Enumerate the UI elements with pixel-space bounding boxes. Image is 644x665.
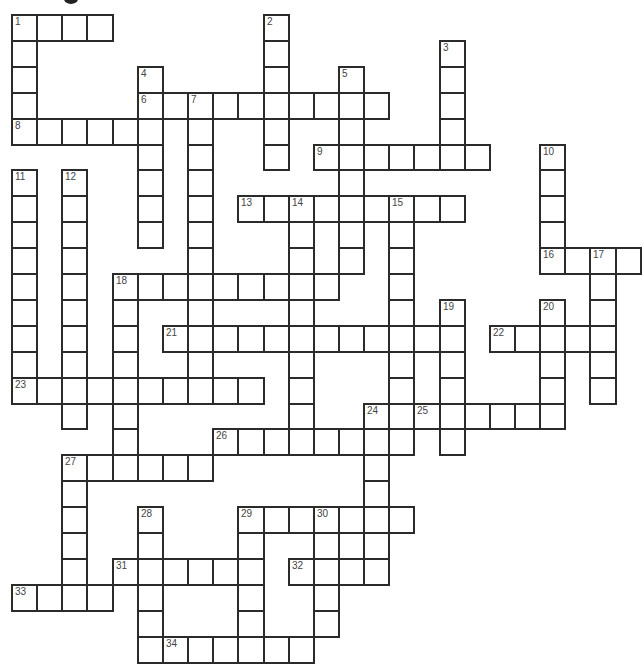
crossword-cell[interactable] [162, 92, 189, 120]
crossword-cell[interactable] [61, 325, 88, 353]
crossword-cell[interactable] [11, 92, 38, 120]
crossword-cell[interactable] [615, 247, 642, 275]
crossword-cell[interactable] [263, 118, 290, 146]
crossword-cell[interactable] [11, 66, 38, 94]
crossword-cell[interactable] [589, 351, 617, 379]
crossword-cell[interactable] [11, 40, 38, 68]
crossword-cell[interactable] [263, 636, 290, 664]
crossword-cell[interactable] [539, 403, 566, 430]
crossword-cell[interactable] [338, 169, 365, 197]
crossword-cell[interactable] [237, 428, 265, 456]
crossword-cell[interactable] [564, 325, 591, 353]
crossword-cell[interactable] [539, 351, 566, 379]
crossword-cell[interactable]: 28 [137, 506, 164, 534]
crossword-cell[interactable] [61, 403, 88, 430]
crossword-cell[interactable] [338, 221, 365, 249]
crossword-cell[interactable] [413, 195, 441, 223]
crossword-cell[interactable] [363, 454, 390, 482]
crossword-cell[interactable]: 3 [439, 40, 466, 68]
crossword-cell[interactable] [61, 195, 88, 223]
crossword-cell[interactable] [439, 377, 466, 405]
crossword-cell[interactable]: 31 [112, 558, 139, 586]
crossword-cell[interactable] [187, 169, 214, 197]
crossword-cell[interactable] [388, 325, 415, 353]
crossword-cell[interactable] [288, 506, 315, 534]
crossword-cell[interactable] [338, 195, 365, 223]
crossword-cell[interactable] [162, 454, 189, 482]
crossword-cell[interactable] [388, 273, 415, 301]
crossword-cell[interactable]: 23 [11, 377, 38, 405]
crossword-cell[interactable] [61, 377, 88, 405]
crossword-cell[interactable] [61, 247, 88, 275]
crossword-cell[interactable] [313, 273, 340, 301]
crossword-cell[interactable] [338, 325, 365, 353]
crossword-cell[interactable] [212, 273, 239, 301]
crossword-cell[interactable] [363, 558, 390, 586]
crossword-cell[interactable] [338, 558, 365, 586]
crossword-cell[interactable] [112, 454, 139, 482]
crossword-cell[interactable]: 19 [439, 299, 466, 327]
crossword-cell[interactable] [137, 144, 164, 171]
crossword-cell[interactable] [263, 428, 290, 456]
crossword-cell[interactable] [212, 558, 239, 586]
crossword-cell[interactable] [36, 584, 63, 612]
crossword-cell[interactable] [187, 144, 214, 171]
crossword-cell[interactable]: 6 [137, 92, 164, 120]
crossword-cell[interactable] [288, 299, 315, 327]
crossword-cell[interactable] [288, 247, 315, 275]
crossword-cell[interactable] [61, 558, 88, 586]
crossword-cell[interactable] [162, 377, 189, 405]
crossword-cell[interactable] [439, 144, 466, 171]
crossword-cell[interactable] [137, 195, 164, 223]
crossword-cell[interactable] [86, 454, 114, 482]
crossword-cell[interactable] [313, 532, 340, 560]
crossword-cell[interactable] [61, 221, 88, 249]
crossword-cell[interactable]: 11 [11, 169, 38, 197]
crossword-cell[interactable] [263, 325, 290, 353]
crossword-cell[interactable] [313, 195, 340, 223]
crossword-cell[interactable] [162, 273, 189, 301]
crossword-cell[interactable]: 29 [237, 506, 265, 534]
crossword-cell[interactable] [137, 454, 164, 482]
crossword-cell[interactable] [388, 247, 415, 275]
crossword-cell[interactable] [288, 273, 315, 301]
crossword-cell[interactable] [263, 195, 290, 223]
crossword-cell[interactable] [61, 273, 88, 301]
crossword-cell[interactable]: 12 [61, 169, 88, 197]
crossword-cell[interactable] [388, 144, 415, 171]
crossword-cell[interactable] [36, 14, 63, 42]
crossword-cell[interactable] [212, 325, 239, 353]
crossword-cell[interactable] [439, 118, 466, 146]
crossword-cell[interactable] [439, 351, 466, 379]
crossword-cell[interactable] [237, 325, 265, 353]
crossword-cell[interactable]: 34 [162, 636, 189, 664]
crossword-cell[interactable] [263, 40, 290, 68]
crossword-cell[interactable] [439, 325, 466, 353]
crossword-cell[interactable] [112, 325, 139, 353]
crossword-cell[interactable] [313, 558, 340, 586]
crossword-cell[interactable] [237, 532, 265, 560]
crossword-cell[interactable]: 33 [11, 584, 38, 612]
crossword-cell[interactable] [388, 351, 415, 379]
crossword-cell[interactable] [589, 273, 617, 301]
crossword-cell[interactable] [61, 506, 88, 534]
crossword-cell[interactable] [288, 92, 315, 120]
crossword-cell[interactable] [439, 403, 466, 430]
crossword-cell[interactable]: 20 [539, 299, 566, 327]
crossword-cell[interactable] [11, 247, 38, 275]
crossword-cell[interactable] [539, 169, 566, 197]
crossword-cell[interactable]: 26 [212, 428, 239, 456]
crossword-cell[interactable] [439, 195, 466, 223]
crossword-cell[interactable] [363, 506, 390, 534]
crossword-cell[interactable] [36, 377, 63, 405]
crossword-cell[interactable]: 18 [112, 273, 139, 301]
crossword-cell[interactable] [137, 610, 164, 638]
crossword-cell[interactable] [162, 558, 189, 586]
crossword-cell[interactable]: 8 [11, 118, 38, 146]
crossword-cell[interactable] [36, 118, 63, 146]
crossword-cell[interactable] [137, 273, 164, 301]
crossword-cell[interactable] [187, 221, 214, 249]
crossword-cell[interactable] [439, 428, 466, 456]
crossword-cell[interactable]: 2 [263, 14, 290, 42]
crossword-cell[interactable] [514, 403, 541, 430]
